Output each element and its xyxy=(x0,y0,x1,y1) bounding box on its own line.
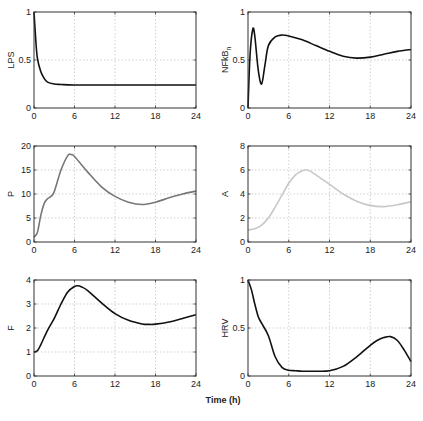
y-axis-label-lps: LPS xyxy=(6,51,16,68)
x-tick-label: 24 xyxy=(191,111,201,121)
y-tick-label: 1 xyxy=(240,275,245,285)
x-tick-label: 12 xyxy=(324,245,334,255)
panel-p: 0612182405101520P xyxy=(6,141,201,255)
y-tick-label: 1 xyxy=(26,347,31,357)
x-tick-label: 0 xyxy=(31,111,36,121)
y-tick-label: 0.5 xyxy=(232,55,245,65)
y-tick-label: 4 xyxy=(26,275,31,285)
y-tick-label: 3 xyxy=(26,299,31,309)
data-line-p xyxy=(34,154,196,237)
y-tick-label: 2 xyxy=(26,323,31,333)
y-tick-label: 0 xyxy=(26,237,31,247)
y-axis-label-hrv: HRV xyxy=(220,319,230,338)
panel-f: 0612182401234F xyxy=(6,275,201,389)
x-tick-label: 12 xyxy=(110,379,120,389)
x-tick-label: 6 xyxy=(72,245,77,255)
x-tick-label: 6 xyxy=(72,379,77,389)
x-tick-label: 12 xyxy=(324,379,334,389)
x-tick-label: 0 xyxy=(31,245,36,255)
figure-canvas: 0612182400.51LPS0612182400.51NFkBn061218… xyxy=(0,0,423,421)
x-tick-label: 24 xyxy=(191,379,201,389)
grid-lines xyxy=(248,280,411,376)
y-tick-label: 0 xyxy=(26,371,31,381)
y-tick-label: 6 xyxy=(240,165,245,175)
grid-lines xyxy=(34,12,196,108)
x-tick-label: 24 xyxy=(406,245,416,255)
panel-lps: 0612182400.51LPS xyxy=(6,7,201,121)
x-tick-label: 0 xyxy=(245,379,250,389)
x-tick-label: 18 xyxy=(365,111,375,121)
y-axis-label-a: A xyxy=(220,191,230,197)
y-tick-label: 4 xyxy=(240,189,245,199)
y-tick-label: 0.5 xyxy=(232,323,245,333)
panel-hrv: 0612182400.51HRV xyxy=(220,275,416,389)
y-axis-label-p: P xyxy=(6,191,16,197)
panel-nfkbn: 0612182400.51NFkBn xyxy=(220,7,416,121)
x-tick-label: 0 xyxy=(245,111,250,121)
x-tick-label: 24 xyxy=(406,111,416,121)
y-tick-label: 0 xyxy=(26,103,31,113)
y-tick-label: 5 xyxy=(26,213,31,223)
y-tick-label: 0 xyxy=(240,371,245,381)
x-tick-label: 18 xyxy=(150,111,160,121)
y-tick-label: 0 xyxy=(240,103,245,113)
y-tick-label: 10 xyxy=(21,189,31,199)
grid-lines xyxy=(248,146,411,242)
x-tick-label: 18 xyxy=(150,379,160,389)
grid-lines xyxy=(34,280,196,376)
x-tick-label: 12 xyxy=(110,111,120,121)
y-tick-label: 8 xyxy=(240,141,245,151)
x-tick-label: 6 xyxy=(286,245,291,255)
y-axis-label-nfkbn: NFkBn xyxy=(220,47,232,74)
x-tick-label: 18 xyxy=(150,245,160,255)
x-tick-label: 6 xyxy=(286,111,291,121)
y-tick-label: 1 xyxy=(26,7,31,17)
y-tick-label: 20 xyxy=(21,141,31,151)
x-tick-label: 18 xyxy=(365,379,375,389)
y-tick-label: 0 xyxy=(240,237,245,247)
y-tick-label: 15 xyxy=(21,165,31,175)
y-tick-label: 0.5 xyxy=(18,55,31,65)
x-tick-label: 12 xyxy=(324,111,334,121)
x-tick-label: 6 xyxy=(72,111,77,121)
x-tick-label: 24 xyxy=(406,379,416,389)
x-tick-label: 12 xyxy=(110,245,120,255)
panel-a: 0612182402468A xyxy=(220,141,416,255)
grid-lines xyxy=(248,12,411,108)
x-axis-label: Time (h) xyxy=(206,395,241,405)
x-tick-label: 18 xyxy=(365,245,375,255)
y-axis-label-f: F xyxy=(6,325,16,331)
x-tick-label: 24 xyxy=(191,245,201,255)
y-tick-label: 2 xyxy=(240,213,245,223)
x-tick-label: 6 xyxy=(286,379,291,389)
grid-lines xyxy=(34,146,196,242)
y-tick-label: 1 xyxy=(240,7,245,17)
x-tick-label: 0 xyxy=(245,245,250,255)
x-tick-label: 0 xyxy=(31,379,36,389)
